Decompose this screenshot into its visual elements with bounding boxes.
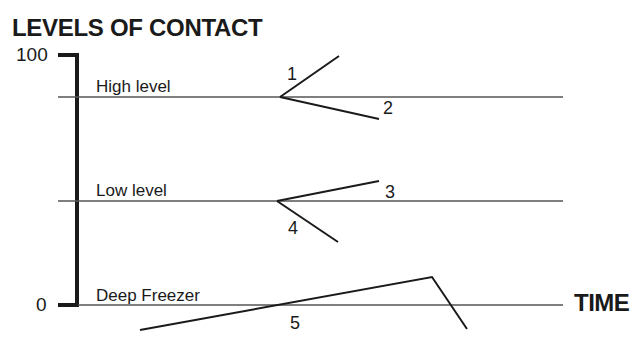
path-4 xyxy=(277,201,338,242)
x-axis-label: TIME xyxy=(574,289,629,317)
chart-title: LEVELS OF CONTACT xyxy=(12,14,262,42)
y-axis-min-label: 0 xyxy=(36,294,47,316)
path-5-label: 5 xyxy=(290,313,300,334)
y-axis-bracket xyxy=(58,53,78,307)
path-2 xyxy=(280,97,379,119)
path-3 xyxy=(277,181,379,201)
low-level-label: Low level xyxy=(96,181,167,201)
path-4-label: 4 xyxy=(288,218,298,239)
path-2-label: 2 xyxy=(383,98,393,119)
path-1-label: 1 xyxy=(287,64,297,85)
path-3-label: 3 xyxy=(385,182,395,203)
y-axis-max-label: 100 xyxy=(16,44,48,66)
deep-freezer-label: Deep Freezer xyxy=(96,286,200,306)
high-level-label: High level xyxy=(96,77,171,97)
